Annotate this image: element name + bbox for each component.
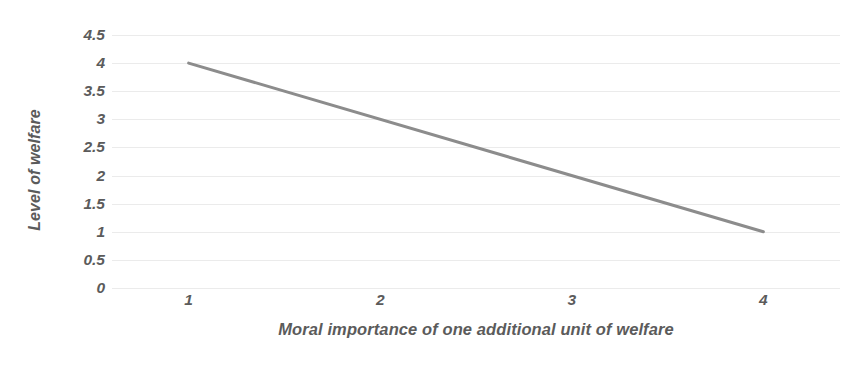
series-line-segment <box>189 63 764 232</box>
gridline <box>112 288 840 289</box>
y-tick-label: 2.5 <box>50 140 105 156</box>
line-chart: Level of welfare 00.511.522.533.544.5 12… <box>0 0 859 369</box>
y-tick-label: 3 <box>50 112 105 128</box>
y-tick-label: 4 <box>50 55 105 71</box>
y-axis-tick-labels: 00.511.522.533.544.5 <box>50 0 105 369</box>
x-tick-label: 3 <box>567 292 576 308</box>
y-tick-label: 4.5 <box>50 27 105 43</box>
y-tick-label: 0.5 <box>50 252 105 268</box>
y-tick-label: 1 <box>50 224 105 240</box>
x-axis-title: Moral importance of one additional unit … <box>112 320 840 339</box>
x-tick-label: 4 <box>759 292 768 308</box>
series-line-welfare <box>112 35 840 288</box>
y-tick-label: 1.5 <box>50 196 105 212</box>
y-axis-title: Level of welfare <box>22 20 48 320</box>
x-tick-label: 1 <box>184 292 193 308</box>
y-tick-label: 0 <box>50 280 105 296</box>
x-axis-tick-labels: 1234 <box>112 292 840 316</box>
y-tick-label: 3.5 <box>50 83 105 99</box>
x-tick-label: 2 <box>376 292 385 308</box>
y-tick-label: 2 <box>50 168 105 184</box>
plot-area <box>112 35 840 288</box>
